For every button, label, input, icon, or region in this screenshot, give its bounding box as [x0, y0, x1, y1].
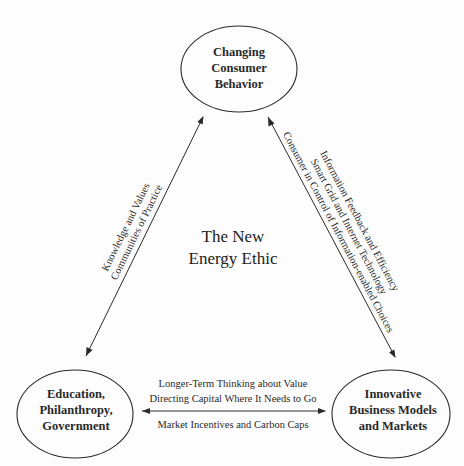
node-label-line: and Markets — [359, 419, 428, 433]
arrowhead-bottom-left — [142, 408, 150, 414]
node-label-line: Business Models — [349, 403, 437, 417]
diagram-svg: Changing Consumer Behavior Education, Ph… — [0, 0, 464, 466]
diagram-canvas: Changing Consumer Behavior Education, Ph… — [0, 0, 464, 466]
edge-label: Market Incentives and Carbon Caps — [157, 419, 308, 430]
edge-right-arrow — [268, 117, 395, 357]
edge-left-labels: Knowledge and Values Communities of Prac… — [98, 177, 165, 281]
edge-label: Smart Grid and Internet Technology — [309, 157, 390, 297]
node-changing-consumer-behavior: Changing Consumer Behavior — [181, 26, 297, 112]
arrowhead-right-top — [268, 117, 275, 127]
center-title-line: The New — [202, 227, 266, 246]
node-label-line: Philanthropy, — [39, 403, 112, 417]
center-title-line: Energy Ethic — [189, 249, 278, 268]
node-label-line: Changing — [213, 45, 266, 59]
node-innovative-business-models: Innovative Business Models and Markets — [332, 370, 450, 458]
edge-left-arrow — [86, 117, 203, 356]
node-label-line: Government — [42, 419, 110, 433]
node-label-line: Consumer — [211, 61, 267, 75]
edge-label: Longer-Term Thinking about Value — [159, 378, 308, 389]
edge-right-labels: Information Feedback and Efficiency Smar… — [281, 119, 417, 335]
edge-label: Directing Capital Where It Needs to Go — [149, 393, 316, 404]
node-label-line: Innovative — [365, 387, 422, 401]
node-label-line: Behavior — [215, 77, 264, 91]
node-education-philanthropy-government: Education, Philanthropy, Government — [17, 370, 133, 458]
node-label-line: Education, — [47, 387, 105, 401]
edge-label: Consumer in Control of Information-enabl… — [281, 130, 396, 334]
